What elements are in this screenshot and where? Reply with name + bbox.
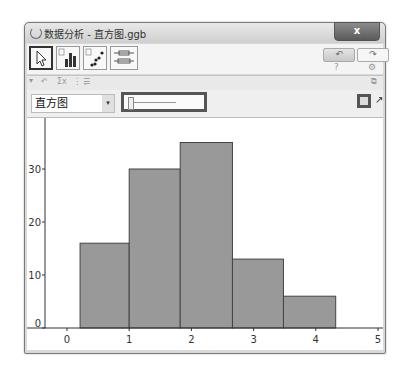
stylebar-toggle-icon[interactable]: ▾ bbox=[29, 76, 33, 85]
geogebra-icon bbox=[30, 27, 42, 39]
window-title: 数据分析 - 直方图.ggb bbox=[44, 26, 146, 41]
slider-track[interactable] bbox=[132, 102, 176, 103]
collapse-icon[interactable]: ⧉ bbox=[371, 77, 377, 87]
plot-type-select[interactable]: 直方图 ▾ bbox=[31, 94, 115, 113]
box-plot-icon bbox=[111, 47, 137, 69]
histogram-plot: 0102030012345 bbox=[27, 118, 383, 350]
histogram-bar bbox=[180, 143, 232, 329]
stylebar-undo-icon[interactable]: ↶ bbox=[41, 77, 48, 86]
histogram-bar bbox=[232, 259, 283, 328]
cursor-arrow-icon bbox=[31, 48, 51, 68]
toolbar: ↶ ↷ ? ⚙ bbox=[27, 44, 383, 74]
table-icon[interactable]: ☰ bbox=[83, 77, 90, 86]
histogram-bar bbox=[129, 169, 180, 328]
scatter-plot-icon bbox=[84, 47, 106, 69]
redo-button[interactable]: ↷ bbox=[357, 48, 389, 62]
export-button[interactable] bbox=[357, 94, 371, 108]
x-tick-label: 0 bbox=[64, 334, 70, 345]
chevron-down-icon[interactable]: ▾ bbox=[102, 95, 114, 112]
style-bar: ▾ ↶ Σx ⋮⋮ ☰ ⧉ bbox=[27, 75, 383, 91]
histogram-bar bbox=[80, 243, 129, 328]
close-button[interactable]: x bbox=[334, 22, 380, 41]
x-tick-label: 4 bbox=[313, 334, 319, 345]
statistics-icon[interactable]: Σx bbox=[57, 77, 67, 86]
y-tick-label: 20 bbox=[28, 217, 41, 228]
y-tick-label: 0 bbox=[35, 318, 41, 329]
x-tick-label: 3 bbox=[250, 334, 256, 345]
plot-options-bar: 直方图 ▾ ↗ bbox=[27, 90, 383, 118]
bin-width-slider[interactable] bbox=[121, 92, 207, 112]
gear-icon[interactable]: ⚙ bbox=[368, 62, 376, 72]
slider-handle[interactable] bbox=[128, 97, 134, 110]
bar-chart-icon bbox=[57, 47, 79, 69]
popout-icon[interactable]: ↗ bbox=[375, 94, 383, 105]
histogram-chart: 0102030012345 bbox=[27, 118, 383, 350]
x-tick-label: 5 bbox=[375, 334, 381, 345]
app-window: 数据分析 - 直方图.ggb x ↶ ↷ ? ⚙ ▾ ↶ Σx ⋮⋮ ☰ ⧉ 直… bbox=[24, 22, 386, 354]
histogram-tool-button[interactable] bbox=[56, 46, 80, 70]
x-tick-label: 2 bbox=[188, 334, 194, 345]
y-tick-label: 30 bbox=[28, 164, 41, 175]
title-bar[interactable]: 数据分析 - 直方图.ggb x bbox=[25, 23, 385, 43]
help-icon[interactable]: ? bbox=[334, 62, 339, 72]
plot-type-value: 直方图 bbox=[35, 97, 68, 110]
boxplot-tool-button[interactable] bbox=[110, 46, 138, 70]
undo-button[interactable]: ↶ bbox=[323, 48, 355, 62]
move-tool-button[interactable] bbox=[29, 46, 53, 70]
histogram-bar bbox=[283, 296, 335, 328]
y-tick-label: 10 bbox=[28, 270, 41, 281]
x-tick-label: 1 bbox=[126, 334, 132, 345]
scatter-tool-button[interactable] bbox=[83, 46, 107, 70]
